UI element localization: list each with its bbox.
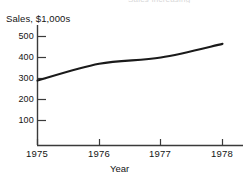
sales-data-line — [38, 44, 223, 81]
sales-line-chart: Sales Increasing Sales, $1,000s 500 400 … — [0, 0, 249, 180]
x-tick-label-1978: 1978 — [202, 148, 242, 159]
x-tick-label-1975: 1975 — [17, 148, 57, 159]
x-axis-title: Year — [110, 163, 129, 174]
x-tick-label-1977: 1977 — [140, 148, 180, 159]
x-tick-label-1976: 1976 — [79, 148, 119, 159]
